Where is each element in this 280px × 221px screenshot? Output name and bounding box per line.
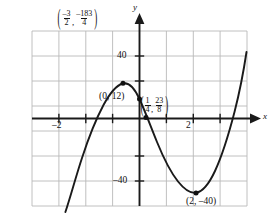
x-fraction: –3 2 bbox=[61, 10, 72, 28]
inflection-point-label: ( 1 4 , 23 8 ) bbox=[140, 95, 169, 114]
y-fraction: –183 4 bbox=[75, 10, 94, 28]
y-fraction: 23 8 bbox=[154, 97, 165, 115]
coordinate-pair: ( –3 2 , –183 4 ) bbox=[57, 10, 98, 28]
y-axis-label: y bbox=[133, 3, 137, 12]
right-paren: ) bbox=[165, 94, 169, 116]
x-fraction: 1 4 bbox=[144, 97, 151, 115]
point-local-maximum bbox=[121, 81, 126, 86]
x-tick-label-2: 2 bbox=[186, 121, 191, 131]
point-local-minimum bbox=[194, 190, 199, 195]
y-intercept-label: (0, 12) bbox=[99, 92, 124, 102]
y-tick-label-40: 40 bbox=[117, 51, 127, 61]
local-minimum-label: (2, –40) bbox=[186, 197, 216, 207]
x-axis-label: x bbox=[263, 112, 267, 121]
y-tick-label-minus-40: –40 bbox=[113, 176, 127, 186]
left-paren: ( bbox=[140, 94, 144, 116]
point-inflection bbox=[144, 115, 149, 120]
cubic-curve bbox=[65, 52, 246, 212]
right-paren: ) bbox=[94, 7, 98, 29]
local-maximum-label: ( –3 2 , –183 4 ) bbox=[57, 8, 98, 27]
left-paren: ( bbox=[57, 7, 61, 29]
graph-figure: x y –2 2 40 –40 ( –3 2 , –183 4 ) (0, 12… bbox=[0, 0, 280, 221]
coordinate-pair: ( 1 4 , 23 8 ) bbox=[140, 97, 169, 115]
x-tick-label-minus-2: –2 bbox=[52, 121, 62, 131]
